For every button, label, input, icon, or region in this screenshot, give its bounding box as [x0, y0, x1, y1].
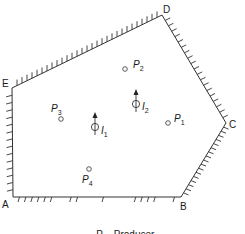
svg-text:I1: I1 [101, 125, 108, 138]
svg-text:I2: I2 [142, 101, 149, 114]
producer-well-p2: P2 [123, 59, 144, 72]
svg-text:P2: P2 [133, 59, 144, 72]
legend-producer: P – Producer [96, 229, 154, 234]
vertex-label-a: A [2, 199, 9, 210]
vertex-label-b: B [180, 201, 187, 212]
producer-well-p1: P1 [166, 113, 185, 126]
svg-text:P3: P3 [51, 103, 62, 116]
producer-well-icon [87, 167, 92, 172]
vertex-label-e: E [2, 78, 9, 89]
producer-well-p3: P3 [51, 103, 63, 121]
legend: P – Producer I – Injector [0, 218, 245, 234]
arrowhead-icon [134, 89, 139, 95]
producer-well-icon [59, 117, 64, 122]
injector-well-i2: I2 [132, 89, 148, 114]
producer-well-p4: P4 [82, 167, 93, 187]
vertex-label-c: C [229, 119, 236, 130]
producer-well-icon [166, 121, 171, 126]
reservoir-boundary [12, 15, 226, 197]
injector-well-i1: I1 [91, 112, 107, 138]
svg-text:P1: P1 [174, 113, 185, 126]
reservoir-diagram: A B C D E P1 P2 P3 P4 I1 I2 [0, 0, 245, 234]
svg-text:P4: P4 [82, 174, 93, 187]
producer-well-icon [123, 67, 128, 72]
vertex-label-d: D [163, 4, 170, 15]
arrowhead-icon [93, 112, 98, 118]
